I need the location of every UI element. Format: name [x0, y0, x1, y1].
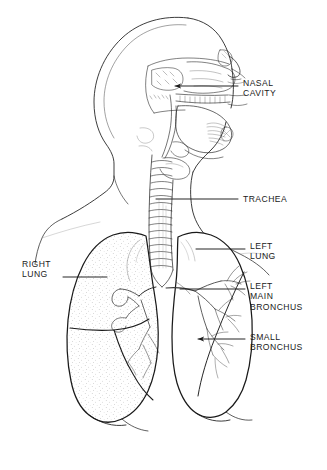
pharynx-larynx — [137, 95, 190, 179]
label-small-bronchus: SMALL BRONCHUS — [250, 332, 303, 353]
cranial-base-bone — [146, 50, 233, 113]
label-right-lung: RIGHT LUNG — [22, 259, 51, 280]
trachea — [149, 155, 173, 287]
respiratory-system-figure: NASAL CAVITY TRACHEA LEFT LUNG LEFT MAIN… — [0, 0, 327, 470]
label-nasal-cavity: NASAL CAVITY — [243, 78, 276, 99]
label-trachea: TRACHEA — [243, 194, 287, 204]
right-lung — [67, 232, 158, 422]
nasal-cavity-structure — [184, 62, 235, 94]
label-left-lung: LEFT LUNG — [250, 241, 276, 262]
hard-palate — [176, 94, 230, 103]
label-left-main-bronchus: LEFT MAIN BRONCHUS — [250, 281, 303, 312]
anatomy-illustration — [0, 0, 327, 470]
oral-cavity-tongue — [176, 106, 233, 159]
head-outline — [35, 17, 274, 275]
left-lung — [166, 233, 252, 418]
